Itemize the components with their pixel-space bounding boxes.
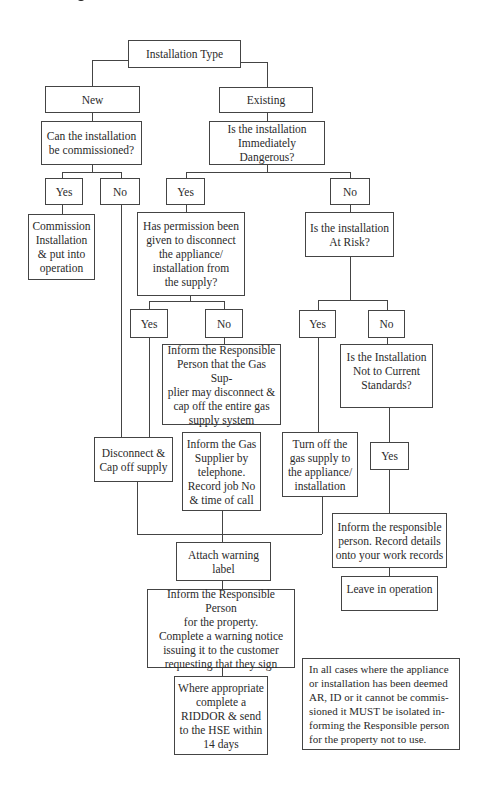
- node-attach-label: Attach warning label: [176, 542, 271, 581]
- node-can-commission: Can the installation be commissioned?: [41, 121, 142, 165]
- node-at-risk: Is the installation At Risk?: [305, 212, 394, 257]
- node-commission: Commission Installation & put into opera…: [28, 214, 95, 280]
- node-perm-yes: Yes: [130, 309, 168, 338]
- node-perm-no: No: [205, 309, 243, 338]
- node-id-no: No: [330, 178, 370, 205]
- node-turn-off: Turn off the gas supply to the appliance…: [282, 432, 358, 497]
- node-riddor: Where appropriate complete a RIDDOR & se…: [174, 676, 268, 755]
- node-inform-supplier-may-disconnect: Inform the Responsible Person that the G…: [162, 344, 281, 425]
- node-new-yes: Yes: [45, 178, 83, 205]
- note-box: In all cases where the appliance or inst…: [302, 658, 460, 750]
- node-new-no: No: [100, 178, 140, 205]
- node-ar-no: No: [368, 310, 405, 338]
- node-existing: Existing: [219, 87, 313, 113]
- node-inform-gas-supplier: Inform the Gas Supplier by telephone. Re…: [182, 432, 261, 511]
- node-installation-type: Installation Type: [128, 40, 241, 68]
- node-ncs-yes: Yes: [370, 442, 409, 470]
- node-not-current-standards: Is the Installation Not to Current Stand…: [340, 344, 433, 408]
- cropped-heading-fragment: [77, 0, 85, 1]
- node-immediately-dangerous: Is the installation Immediately Dangerou…: [209, 121, 325, 165]
- node-new: New: [45, 86, 140, 113]
- node-leave-in-operation: Leave in operation: [341, 576, 438, 611]
- node-inform-record: Inform the responsible person. Record de…: [332, 513, 447, 568]
- node-ar-yes: Yes: [299, 310, 336, 338]
- node-inform-warning-notice: Inform the Responsible Person for the pr…: [147, 589, 295, 668]
- node-id-yes: Yes: [166, 178, 205, 205]
- node-disconnect-cap: Disconnect & Cap off supply: [94, 437, 173, 482]
- node-permission: Has permission been given to disconnect …: [137, 212, 245, 296]
